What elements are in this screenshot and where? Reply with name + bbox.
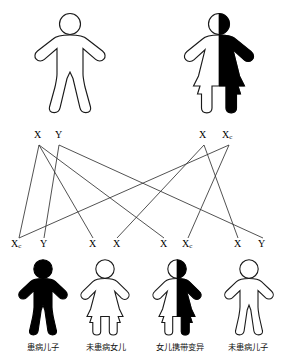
line-motherXc-to-child1 <box>19 145 229 238</box>
child-2-figure <box>81 260 129 335</box>
child-4-figure <box>225 260 273 335</box>
gamete-lines <box>19 145 263 238</box>
diagram-canvas <box>0 0 286 360</box>
line-fatherX-to-child1 <box>19 145 39 238</box>
mother-figure <box>184 14 253 113</box>
father-figure <box>35 14 105 113</box>
child-1-figure <box>19 260 67 335</box>
line-motherX-to-child2 <box>117 145 204 238</box>
line-fatherX-to-child3 <box>39 145 164 238</box>
line-motherX-to-child4 <box>204 145 238 238</box>
line-motherXc-to-child3 <box>188 145 229 238</box>
line-fatherX-to-child2 <box>39 145 93 238</box>
child-3-figure <box>153 260 201 335</box>
inheritance-diagram: X Y X Xc Xc Y X X X Xc X Y 患病儿子 未患病女儿 女儿… <box>0 0 286 360</box>
